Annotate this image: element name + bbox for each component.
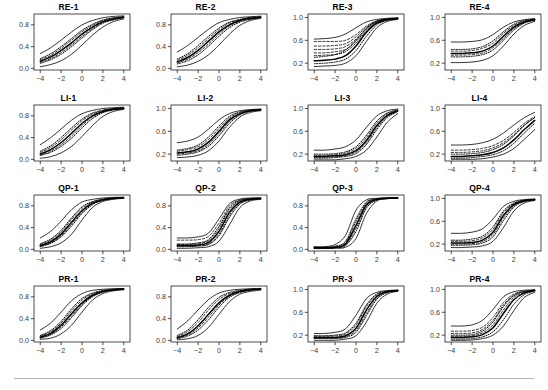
series-band-upper	[177, 109, 260, 150]
x-tick-label: −4	[173, 74, 181, 83]
panel-plot: 0.00.40.8−4−2024	[137, 0, 274, 91]
x-tick-label: 4	[259, 164, 263, 173]
x-tick-label: −2	[194, 164, 202, 173]
panel-plot: 0.20.61.0−4−2024	[137, 91, 274, 182]
x-tick-label: −2	[194, 255, 202, 264]
series-band-upper	[177, 288, 260, 335]
panel-plot: 0.20.61.0−4−2024	[411, 0, 548, 91]
panel-plot: 0.00.40.8−4−2024	[0, 91, 137, 182]
y-tick-label: 0.8	[156, 292, 166, 301]
x-tick-label: 0	[80, 345, 84, 354]
series-band-upper	[40, 17, 123, 59]
y-tick-label: 0.0	[19, 154, 29, 163]
plot-panel: QP-30.00.40.8−4−2024	[274, 181, 411, 272]
x-tick-label: 4	[396, 164, 400, 173]
y-tick-label: 0.2	[156, 149, 166, 158]
panel-plot: 0.20.61.0−4−2024	[411, 181, 548, 272]
series-center	[177, 17, 260, 62]
y-tick-label: 0.2	[293, 59, 303, 68]
x-tick-label: −2	[468, 74, 476, 83]
series-band-dash-upper	[451, 199, 534, 241]
series-band-dash-upper	[40, 107, 123, 151]
x-tick-label: 2	[238, 164, 242, 173]
x-tick-label: 0	[354, 164, 358, 173]
x-tick-label: 2	[101, 345, 105, 354]
x-tick-label: 4	[122, 74, 126, 83]
x-tick-label: −2	[194, 345, 202, 354]
x-tick-label: −2	[57, 345, 65, 354]
x-tick-label: 2	[375, 74, 379, 83]
panel-plot: 0.20.61.0−4−2024	[274, 0, 411, 91]
x-tick-label: 0	[491, 74, 495, 83]
y-tick-label: 0.8	[19, 20, 29, 29]
x-tick-label: −4	[173, 345, 181, 354]
panel-plot: 0.20.61.0−4−2024	[411, 91, 548, 182]
x-tick-label: −4	[447, 164, 455, 173]
series-envelope-upper	[40, 197, 123, 238]
x-tick-label: −2	[468, 345, 476, 354]
y-tick-label: 0.0	[19, 245, 29, 254]
x-tick-label: −4	[310, 74, 318, 83]
y-tick-label: 1.0	[430, 194, 440, 203]
y-tick-label: 1.0	[293, 104, 303, 113]
plot-panel: LI-30.20.61.0−4−2024	[274, 91, 411, 182]
series-fan-1	[177, 288, 260, 336]
series-envelope-lower	[40, 19, 123, 67]
x-tick-label: 2	[101, 255, 105, 264]
x-tick-label: −4	[36, 164, 44, 173]
x-tick-label: −4	[173, 255, 181, 264]
series-band-lower	[177, 199, 260, 247]
series-band-upper	[40, 197, 123, 243]
y-tick-label: 0.0	[19, 64, 29, 73]
x-tick-label: 2	[512, 255, 516, 264]
y-tick-label: 0.2	[430, 59, 440, 68]
x-tick-label: 0	[217, 164, 221, 173]
x-tick-label: −4	[447, 255, 455, 264]
series-band-lower	[451, 291, 534, 339]
plot-panel: PR-40.20.61.0−4−2024	[411, 272, 548, 363]
x-tick-label: 0	[354, 345, 358, 354]
y-tick-label: 0.6	[156, 126, 166, 135]
series-envelope-lower	[451, 200, 534, 247]
y-tick-label: 1.0	[430, 285, 440, 294]
x-tick-label: 2	[375, 345, 379, 354]
x-tick-label: 2	[101, 74, 105, 83]
series-band-dash-upper	[177, 17, 260, 60]
x-tick-label: 0	[80, 164, 84, 173]
series-center	[40, 17, 123, 61]
series-band-lower	[451, 200, 534, 245]
x-tick-label: 2	[512, 164, 516, 173]
series-band-lower	[314, 198, 397, 248]
y-tick-label: 0.0	[293, 245, 303, 254]
y-tick-label: 0.4	[19, 314, 29, 323]
y-tick-label: 0.8	[293, 201, 303, 210]
y-tick-label: 0.6	[430, 36, 440, 45]
y-tick-label: 0.2	[430, 149, 440, 158]
x-tick-label: 2	[512, 345, 516, 354]
plot-panel: QP-10.00.40.8−4−2024	[0, 181, 137, 272]
x-tick-label: 0	[354, 74, 358, 83]
x-tick-label: 4	[533, 164, 537, 173]
x-tick-label: 0	[491, 255, 495, 264]
series-band-dash-upper	[40, 198, 123, 245]
x-tick-label: 4	[259, 255, 263, 264]
series-band-upper	[177, 198, 260, 244]
x-tick-label: 0	[80, 255, 84, 264]
y-tick-label: 0.8	[19, 111, 29, 120]
plot-panel: PR-20.00.40.8−4−2024	[137, 272, 274, 363]
panel-plot: 0.00.40.8−4−2024	[0, 181, 137, 272]
series-envelope-upper	[314, 109, 397, 150]
x-tick-label: 4	[396, 255, 400, 264]
y-tick-label: 0.6	[293, 36, 303, 45]
y-tick-label: 1.0	[156, 104, 166, 113]
y-tick-label: 0.6	[293, 307, 303, 316]
series-band-dash-lower	[177, 199, 260, 246]
x-tick-label: 0	[354, 255, 358, 264]
series-band-lower	[40, 198, 123, 247]
x-tick-label: 2	[101, 164, 105, 173]
x-tick-label: 2	[238, 255, 242, 264]
y-tick-label: 0.8	[156, 201, 166, 210]
x-tick-label: 4	[122, 345, 126, 354]
x-tick-label: 4	[533, 74, 537, 83]
plot-panel: PR-30.20.61.0−4−2024	[274, 272, 411, 363]
